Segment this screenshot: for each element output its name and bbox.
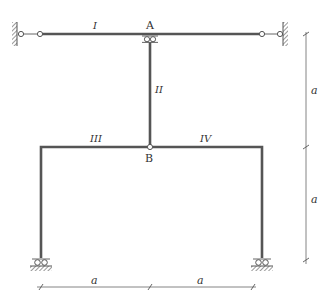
left-roller-support: [30, 259, 52, 271]
member-I-label: I: [92, 20, 98, 31]
member-III: [41, 147, 148, 258]
member-III-label: III: [89, 133, 103, 144]
node-A-label: A: [145, 19, 155, 32]
right-wall-support: [259, 22, 288, 46]
dimension-label-v2: a: [311, 193, 318, 206]
dimension-label-h2: a: [197, 274, 204, 287]
node-B-label: B: [145, 152, 153, 165]
member-IV-label: IV: [199, 133, 213, 144]
dimension-label-v1: a: [311, 84, 318, 97]
left-wall-support: [12, 22, 43, 46]
right-roller-support: [251, 259, 273, 271]
node-A-roller: [142, 36, 158, 42]
horizontal-dimension: [37, 284, 256, 290]
dimension-label-h1: a: [91, 274, 98, 287]
vertical-dimension: [303, 32, 309, 264]
hinge-B-icon: [147, 144, 152, 149]
member-IV: [153, 147, 263, 258]
structure-diagram: A B I II III IV a a a a: [0, 0, 329, 304]
member-II-label: II: [154, 84, 164, 95]
